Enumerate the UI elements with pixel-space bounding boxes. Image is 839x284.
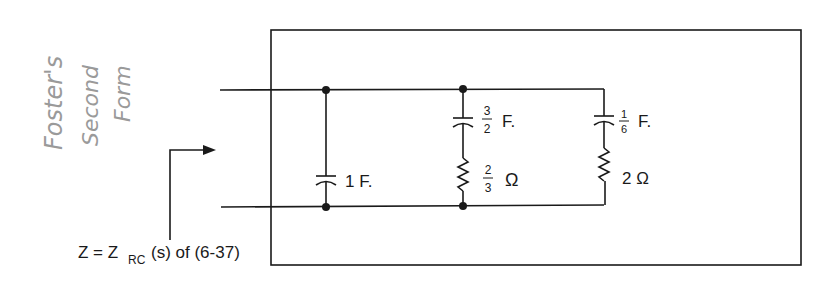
handwritten-line-2: Second <box>78 64 103 146</box>
resistor-2-ohm-icon <box>599 148 609 205</box>
foster-second-form-diagram: Foster's Second Form <box>0 0 839 284</box>
svg-text:F.: F. <box>638 112 651 131</box>
svg-text:Z = Z: Z = Z <box>78 243 118 262</box>
svg-text:(s) of (6-37): (s) of (6-37) <box>151 243 240 262</box>
capacitor-3-2f-label: 3 2 F. <box>482 104 515 136</box>
capacitor-1-6f-icon <box>594 89 614 148</box>
network-box <box>271 30 801 265</box>
node-icon <box>322 86 330 94</box>
top-rail <box>220 89 604 90</box>
capacitor-1f-icon <box>316 90 336 207</box>
node-icon <box>459 202 467 210</box>
input-arrow-line <box>170 150 208 240</box>
bottom-rail <box>221 205 604 207</box>
impedance-label: Z = Z RC (s) of (6-37) <box>78 243 240 267</box>
capacitor-3-2f-icon <box>453 89 473 158</box>
resistor-2-ohm-label: 2 Ω <box>622 169 649 188</box>
svg-text:2: 2 <box>485 163 492 177</box>
svg-text:RC: RC <box>128 253 146 267</box>
svg-text:F.: F. <box>502 112 515 131</box>
node-icon <box>459 85 467 93</box>
svg-text:Ω: Ω <box>505 170 518 190</box>
resistor-2-3-ohm-icon <box>458 158 468 206</box>
capacitor-1-6f-label: 1 6 F. <box>619 108 651 135</box>
handwritten-annotation: Foster's Second Form <box>40 56 135 150</box>
svg-text:3: 3 <box>485 181 492 195</box>
handwritten-line-3: Form <box>110 65 135 122</box>
svg-text:2: 2 <box>484 122 491 136</box>
svg-text:6: 6 <box>621 123 627 135</box>
svg-text:3: 3 <box>484 104 491 118</box>
handwritten-line-1: Foster's <box>40 56 68 150</box>
resistor-2-3-ohm-label: 2 3 Ω <box>483 163 518 195</box>
node-icon <box>322 203 330 211</box>
arrowhead-icon <box>203 145 216 155</box>
svg-text:1: 1 <box>621 108 627 120</box>
capacitor-1f-label: 1 F. <box>345 172 372 191</box>
junction-nodes <box>322 85 467 211</box>
